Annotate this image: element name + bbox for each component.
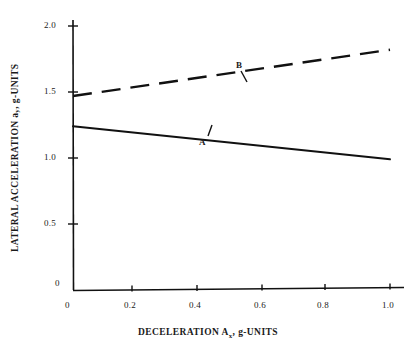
y-axis-title-subscript: y bbox=[13, 109, 20, 113]
series-a-leader bbox=[208, 125, 212, 136]
x-axis bbox=[73, 288, 404, 291]
x-tick-label-0.6: 0.6 bbox=[254, 300, 266, 310]
y-axis-title-pre: LATERAL ACCELERATION a bbox=[10, 113, 20, 252]
y-tick-label-0.5: 0.5 bbox=[44, 218, 56, 228]
series-b-line bbox=[73, 50, 390, 96]
x-axis-title-post: , g-UNITS bbox=[233, 327, 278, 337]
y-tick-label-2.0: 2.0 bbox=[44, 20, 56, 30]
x-tick-label-0: 0 bbox=[65, 300, 70, 310]
series-b-annotation: B bbox=[236, 60, 242, 70]
y-tick-label-1.5: 1.5 bbox=[44, 86, 56, 96]
x-tick-label-0.4: 0.4 bbox=[189, 300, 201, 310]
y-axis-title-post: , g-UNITS bbox=[10, 64, 20, 109]
x-tick-label-0.8: 0.8 bbox=[317, 300, 329, 310]
chart-figure: 2.0 1.5 1.0 0.5 0 0 0.2 0.4 0.6 0.8 1.0 … bbox=[0, 0, 416, 359]
series-a-line bbox=[73, 126, 390, 159]
y-axis-title: LATERAL ACCELERATION ay, g-UNITS bbox=[6, 38, 24, 278]
plot-area bbox=[0, 0, 416, 359]
series-a-annotation: A bbox=[199, 137, 206, 147]
y-tick-label-0: 0 bbox=[55, 278, 60, 288]
series-b-leader bbox=[241, 71, 247, 82]
y-axis bbox=[73, 20, 74, 290]
x-axis-title-pre: DECELERATION A bbox=[138, 327, 229, 337]
x-tick-label-1.0: 1.0 bbox=[382, 300, 394, 310]
x-tick-label-0.2: 0.2 bbox=[124, 300, 136, 310]
x-axis-title: DECELERATION Ax, g-UNITS bbox=[0, 327, 416, 339]
y-tick-label-1.0: 1.0 bbox=[44, 152, 56, 162]
